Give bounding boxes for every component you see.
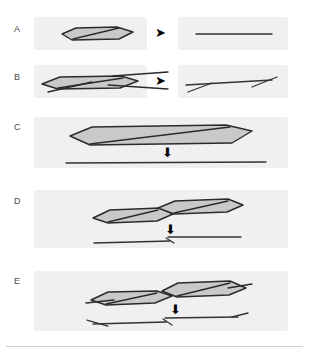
panel-label-a: A <box>14 24 20 34</box>
panel-label-d: D <box>14 196 21 206</box>
figure-container: ABCDE ➤➤⬇⬇⬇ <box>0 0 309 354</box>
figure-canvas <box>0 0 309 354</box>
panel-d <box>34 190 288 248</box>
panel-a-right-arrow: ➤ <box>155 26 166 39</box>
panel-d-down-arrow: ⬇ <box>165 223 176 236</box>
panel-label-c: C <box>14 122 21 132</box>
panel-e <box>34 271 288 331</box>
panel-b-right-arrow: ➤ <box>155 74 166 87</box>
panel-label-b: B <box>14 72 20 82</box>
bottom-divider <box>6 346 303 347</box>
panel-label-e: E <box>14 276 20 286</box>
panel-c <box>34 117 288 168</box>
panel-b-box-after <box>178 65 288 98</box>
panel-c-down-arrow: ⬇ <box>162 146 173 159</box>
panel-e-down-arrow: ⬇ <box>170 303 181 316</box>
